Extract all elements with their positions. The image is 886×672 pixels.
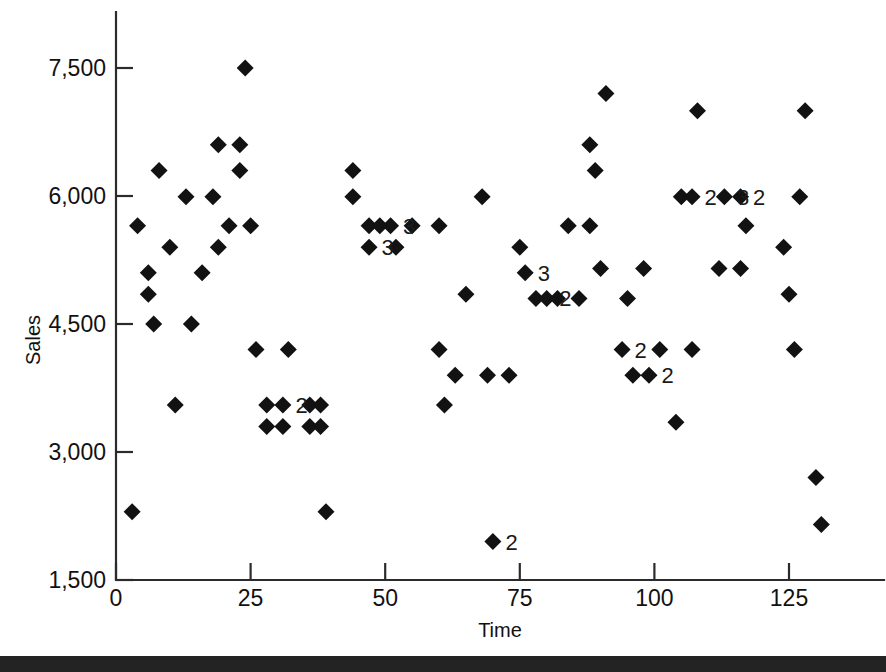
x-tick-label: 125 — [770, 585, 808, 611]
data-point-marker — [280, 341, 297, 358]
data-point-marker — [237, 60, 254, 77]
data-point-marker — [641, 367, 658, 384]
data-point-marker — [231, 162, 248, 179]
data-point-marker — [635, 260, 652, 277]
data-point-marker — [597, 85, 614, 102]
y-tick-label: 6,000 — [48, 183, 106, 209]
data-point-marker — [344, 162, 361, 179]
data-point-marker — [737, 217, 754, 234]
point-count-label: 2 — [295, 393, 307, 418]
data-point-marker — [258, 397, 275, 414]
data-point-marker — [194, 264, 211, 281]
data-point-marker — [242, 217, 259, 234]
data-point-marker — [651, 341, 668, 358]
data-point-marker — [689, 102, 706, 119]
data-point-marker — [711, 260, 728, 277]
y-tick-label: 3,000 — [48, 439, 106, 465]
axis-spines — [116, 12, 884, 580]
point-count-label: 3 — [538, 261, 550, 286]
data-point-marker — [684, 188, 701, 205]
data-point-marker — [129, 217, 146, 234]
x-tick-label: 75 — [507, 585, 533, 611]
point-count-label: 2 — [559, 286, 571, 311]
data-point-marker — [344, 188, 361, 205]
data-point-marker — [317, 503, 334, 520]
y-axis-ticks — [116, 68, 133, 580]
data-point-marker — [247, 341, 264, 358]
data-point-marker — [786, 341, 803, 358]
data-point-marker — [204, 188, 221, 205]
data-point-marker — [587, 162, 604, 179]
data-point-marker — [167, 397, 184, 414]
point-count-label: 2 — [753, 185, 765, 210]
data-point-marker — [274, 397, 291, 414]
data-point-marker — [312, 397, 329, 414]
data-point-marker — [210, 239, 227, 256]
data-point-marker — [274, 418, 291, 435]
point-count-label: 3 — [382, 235, 394, 260]
data-point-marker — [775, 239, 792, 256]
data-point-marker — [177, 188, 194, 205]
data-point-marker — [151, 162, 168, 179]
data-point-markers — [124, 60, 830, 551]
data-point-marker — [183, 316, 200, 333]
data-point-marker — [619, 290, 636, 307]
data-point-marker — [258, 418, 275, 435]
bottom-dark-band — [0, 656, 886, 672]
data-point-marker — [210, 136, 227, 153]
x-tick-label: 50 — [372, 585, 398, 611]
y-tick-label: 7,500 — [48, 55, 106, 81]
point-count-label: 2 — [505, 530, 517, 555]
point-count-label: 2 — [705, 185, 717, 210]
data-point-marker — [431, 217, 448, 234]
y-tick-label: 1,500 — [48, 567, 106, 593]
figure-container: 1,5003,0004,5006,0007,500 0255075100125 … — [0, 0, 886, 672]
point-count-label: 3 — [403, 214, 415, 239]
data-point-marker — [614, 341, 631, 358]
scatter-plot: 1,5003,0004,5006,0007,500 0255075100125 … — [0, 0, 886, 672]
multiplicity-labels: 23323222232 — [295, 185, 765, 555]
data-point-marker — [571, 290, 588, 307]
data-point-marker — [221, 217, 238, 234]
y-axis-title: Sales — [22, 315, 44, 365]
data-point-marker — [145, 316, 162, 333]
x-tick-label: 100 — [635, 585, 673, 611]
data-point-marker — [797, 102, 814, 119]
y-tick-label: 4,500 — [48, 311, 106, 337]
data-point-marker — [511, 239, 528, 256]
y-axis-tick-labels: 1,5003,0004,5006,0007,500 — [48, 55, 106, 593]
x-axis-title: Time — [478, 619, 522, 641]
point-count-label: 2 — [635, 338, 647, 363]
data-point-marker — [140, 286, 157, 303]
data-point-marker — [716, 188, 733, 205]
data-point-marker — [560, 217, 577, 234]
data-point-marker — [479, 367, 496, 384]
point-count-label: 3 — [737, 185, 749, 210]
data-point-marker — [474, 188, 491, 205]
x-tick-label: 0 — [110, 585, 123, 611]
data-point-marker — [624, 367, 641, 384]
data-point-marker — [732, 260, 749, 277]
point-count-label: 2 — [662, 363, 674, 388]
data-point-marker — [581, 136, 598, 153]
data-point-marker — [592, 260, 609, 277]
data-point-marker — [457, 286, 474, 303]
data-point-marker — [124, 503, 141, 520]
data-point-marker — [140, 264, 157, 281]
data-point-marker — [447, 367, 464, 384]
data-point-marker — [382, 217, 399, 234]
data-point-marker — [361, 239, 378, 256]
data-point-marker — [501, 367, 518, 384]
data-point-marker — [431, 341, 448, 358]
data-point-marker — [667, 414, 684, 431]
data-point-marker — [484, 533, 501, 550]
x-axis-ticks — [116, 563, 789, 580]
data-point-marker — [807, 469, 824, 486]
x-tick-label: 25 — [238, 585, 264, 611]
data-point-marker — [312, 418, 329, 435]
data-point-marker — [791, 188, 808, 205]
x-axis-tick-labels: 0255075100125 — [110, 585, 809, 611]
data-point-marker — [581, 217, 598, 234]
data-point-marker — [231, 136, 248, 153]
data-point-marker — [684, 341, 701, 358]
